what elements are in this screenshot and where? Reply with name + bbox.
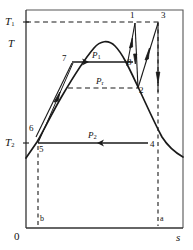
- state-point-label-6: 6: [29, 124, 34, 133]
- process-3-4-arrowhead: [156, 72, 160, 83]
- entropy-mark-label-a: a: [160, 215, 164, 223]
- process-6-7-heating-line: [36, 63, 72, 137]
- state-point-label-8: 8: [127, 58, 132, 67]
- ts-diagram-figure: T1 T T2 P1 Pr P2 1 2 3 4 5 6 7 8 b a 0 s: [0, 0, 193, 250]
- pressure-label-pr: Pr: [96, 77, 104, 87]
- state-point-label-1: 1: [130, 11, 135, 20]
- process-8-1-arrowhead: [129, 38, 132, 48]
- process-2-3-arrowhead: [145, 48, 150, 60]
- axis-label-t2: T2: [5, 137, 14, 149]
- axis-origin-label: 0: [14, 231, 20, 242]
- saturation-dome-curve: [26, 42, 183, 158]
- process-5-7-heating-line: [38, 63, 73, 143]
- entropy-mark-label-b: b: [40, 215, 44, 223]
- state-point-label-7: 7: [62, 54, 67, 63]
- axis-label-temperature: T: [8, 38, 14, 49]
- pressure-label-p1: P1: [92, 51, 101, 61]
- state-point-label-3: 3: [161, 11, 166, 20]
- state-point-label-4: 4: [150, 140, 155, 149]
- state-point-label-2: 2: [139, 86, 144, 95]
- axis-label-t1: T1: [5, 16, 14, 28]
- pressure-label-p2: P2: [88, 131, 97, 141]
- state-point-label-5: 5: [39, 145, 44, 154]
- axis-label-entropy: s: [176, 232, 180, 243]
